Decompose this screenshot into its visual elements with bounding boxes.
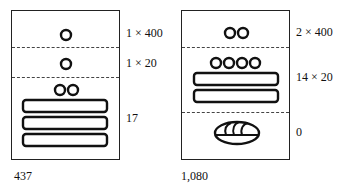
dot-icon — [225, 28, 235, 38]
level-label: 1 × 400 — [126, 26, 163, 40]
numeral-panel-left — [11, 10, 120, 160]
bar-icon — [194, 73, 278, 85]
dot-icon — [55, 85, 65, 95]
numeral-panel-right — [181, 10, 290, 160]
level-label: 14 × 20 — [296, 70, 333, 84]
left-glyphs — [12, 11, 121, 161]
shell-zero-icon — [215, 122, 259, 144]
dot-icon — [61, 59, 71, 69]
bar-icon — [23, 100, 107, 112]
level-label: 0 — [296, 125, 302, 139]
level-label: 17 — [126, 111, 138, 125]
bar-icon — [23, 117, 107, 129]
dot-icon — [211, 58, 221, 68]
figure-total: 437 — [14, 169, 32, 183]
level-label: 2 × 400 — [296, 25, 333, 39]
dot-icon — [238, 28, 248, 38]
dot-icon — [68, 85, 78, 95]
dot-icon — [250, 58, 260, 68]
level-label: 1 × 20 — [126, 56, 157, 70]
right-glyphs — [182, 11, 291, 161]
dot-icon — [61, 30, 71, 40]
bar-icon — [23, 134, 107, 146]
dot-icon — [224, 58, 234, 68]
figure-total: 1,080 — [181, 169, 208, 183]
dot-icon — [237, 58, 247, 68]
bar-icon — [194, 90, 278, 102]
